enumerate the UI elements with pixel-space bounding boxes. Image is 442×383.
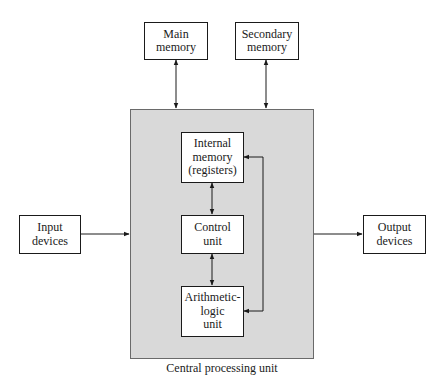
secondary-memory-label-1: Secondary — [242, 28, 293, 42]
control-unit-label-2: unit — [203, 235, 222, 249]
secondary-memory-label-2: memory — [247, 41, 287, 55]
main-memory-box: Main memory — [144, 22, 208, 60]
control-unit-box: Control unit — [181, 215, 244, 254]
output-devices-box: Output devices — [363, 215, 426, 254]
internal-memory-label-3: (registers) — [188, 164, 237, 178]
cpu-caption: Central processing unit — [130, 361, 314, 376]
internal-memory-label-2: memory — [193, 151, 233, 165]
input-devices-box: Input devices — [19, 215, 81, 254]
alu-label-2: logic — [201, 305, 225, 319]
internal-memory-label-1: Internal — [194, 137, 231, 151]
output-devices-label-2: devices — [377, 235, 413, 249]
main-memory-label-2: memory — [156, 41, 196, 55]
alu-label-3: unit — [203, 318, 222, 332]
control-unit-label-1: Control — [194, 221, 231, 235]
secondary-memory-box: Secondary memory — [235, 22, 299, 60]
alu-box: Arithmetic- logic unit — [181, 286, 244, 337]
input-devices-label-2: devices — [32, 235, 68, 249]
internal-memory-box: Internal memory (registers) — [181, 132, 244, 183]
registers-alu-loop-arrow — [244, 157, 263, 311]
main-memory-label-1: Main — [163, 28, 188, 42]
alu-label-1: Arithmetic- — [185, 291, 241, 305]
output-devices-label-1: Output — [378, 221, 411, 235]
input-devices-label-1: Input — [37, 221, 62, 235]
